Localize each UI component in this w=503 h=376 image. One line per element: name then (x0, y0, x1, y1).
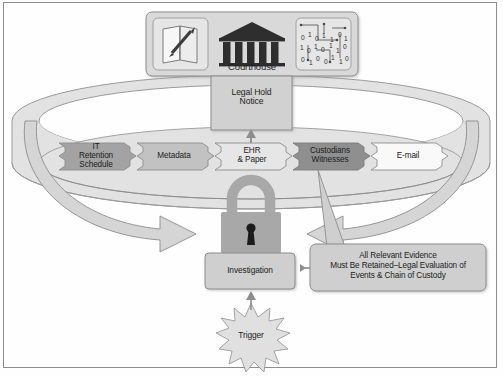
process-diagram: 010 110 1 101 011 0 010 011 0 (0, 0, 503, 376)
svg-text:1: 1 (331, 54, 335, 61)
svg-text:0: 0 (321, 46, 325, 53)
svg-text:0: 0 (324, 58, 328, 65)
svg-text:1: 1 (336, 47, 340, 54)
svg-text:1: 1 (339, 58, 343, 65)
svg-text:1: 1 (300, 44, 304, 51)
svg-text:1: 1 (314, 43, 318, 50)
binary-data-icon: 010 110 1 101 011 0 010 011 0 (296, 18, 351, 70)
svg-text:1: 1 (309, 59, 313, 66)
svg-text:0: 0 (301, 56, 305, 63)
svg-text:0: 0 (338, 31, 342, 38)
svg-text:1: 1 (329, 42, 333, 49)
svg-text:0: 0 (315, 35, 319, 42)
svg-text:0: 0 (343, 43, 347, 50)
chevron-it-retention-schedule (59, 143, 136, 170)
svg-text:0: 0 (316, 55, 320, 62)
evidence-chevron-row (59, 143, 448, 170)
document-pen-icon (153, 18, 208, 70)
arrow-trigger-to-investigation (246, 291, 256, 310)
svg-text:0: 0 (345, 55, 349, 62)
diagram-canvas: 010 110 1 101 011 0 010 011 0 (0, 0, 503, 376)
svg-text:1: 1 (322, 32, 326, 39)
courthouse-panel: 010 110 1 101 011 0 010 011 0 (146, 12, 358, 76)
svg-text:0: 0 (301, 34, 305, 41)
investigation-box (205, 253, 295, 289)
chevron-ehr-paper (215, 143, 292, 170)
chevron-e-mail (371, 143, 448, 170)
chevron-metadata (137, 143, 214, 170)
svg-text:1: 1 (308, 31, 312, 38)
svg-text:1: 1 (344, 35, 348, 42)
trigger-starburst (216, 303, 290, 372)
legal-hold-notice-box (211, 76, 292, 130)
svg-text:0: 0 (307, 47, 311, 54)
chevron-custodians-witnesses (293, 143, 370, 170)
